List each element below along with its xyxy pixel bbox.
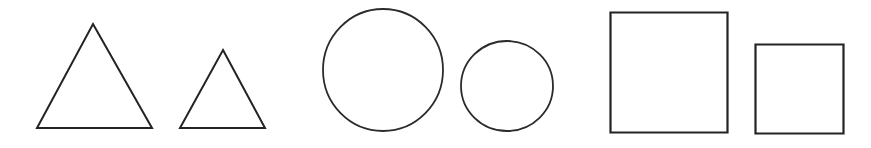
shapes-drawing <box>0 0 871 148</box>
drawing-background <box>0 0 871 148</box>
figure-canvas <box>0 0 871 148</box>
